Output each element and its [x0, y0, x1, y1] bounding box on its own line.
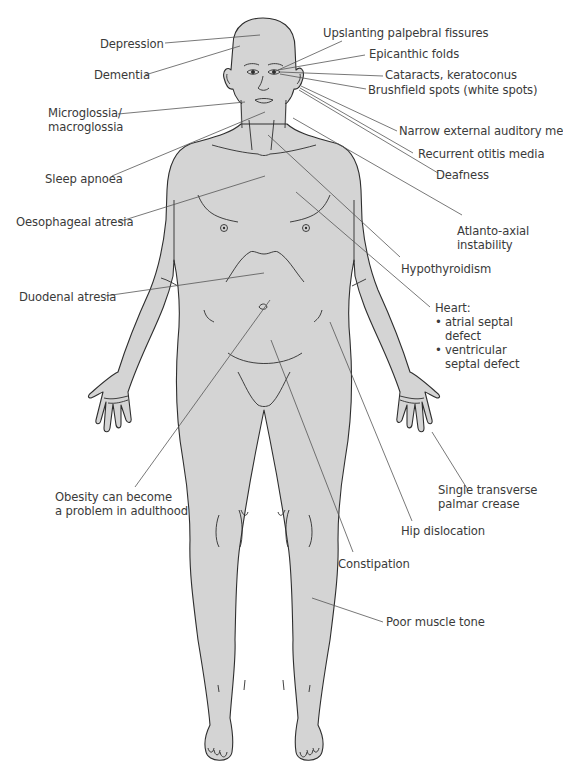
label-depression: Depression [100, 37, 164, 51]
label-constipation: Constipation [338, 557, 410, 571]
label-atlanto-line2: instability [457, 238, 529, 252]
label-upslanting-palpebral-fissures: Upslanting palpebral fissures [323, 26, 489, 40]
label-obesity: Obesity can become a problem in adulthoo… [55, 490, 188, 518]
label-obesity-line2: a problem in adulthood [55, 504, 188, 518]
torso [88, 124, 439, 760]
label-atlanto-axial-instability: Atlanto-axial instability [457, 224, 529, 252]
label-palmar-line2: palmar crease [438, 497, 537, 511]
label-deafness: Deafness [436, 168, 489, 182]
label-microglossia-line2: macroglossia [48, 120, 123, 134]
label-hypothyroidism: Hypothyroidism [401, 262, 491, 276]
label-poor-muscle-tone: Poor muscle tone [386, 615, 485, 629]
label-single-transverse-palmar-crease: Single transverse palmar crease [438, 483, 537, 511]
label-heart-item-vsd: •ventricularseptal defect [435, 343, 519, 371]
label-atlanto-line1: Atlanto-axial [457, 224, 529, 238]
label-cataracts-keratoconus: Cataracts, keratoconus [385, 68, 517, 82]
label-obesity-line1: Obesity can become [55, 490, 188, 504]
label-heart-title: Heart: [435, 301, 519, 315]
label-duodenal-atresia: Duodenal atresia [19, 290, 116, 304]
label-recurrent-otitis-media: Recurrent otitis media [418, 147, 544, 161]
label-palmar-line1: Single transverse [438, 483, 537, 497]
label-heart-item-asd: •atrial septaldefect [435, 315, 519, 343]
label-hip-dislocation: Hip dislocation [401, 524, 485, 538]
label-narrow-auditory-meatus: Narrow external auditory me [399, 124, 563, 138]
label-heart: Heart: •atrial septaldefect •ventricular… [435, 301, 519, 371]
label-epicanthic-folds: Epicanthic folds [369, 47, 459, 61]
label-sleep-apnoea: Sleep apnoea [45, 172, 123, 186]
label-microglossia: Microglossia/ macroglossia [48, 106, 123, 134]
label-oesophageal-atresia: Oesophageal atresia [16, 215, 133, 229]
label-microglossia-line1: Microglossia/ [48, 106, 123, 120]
label-brushfield-spots: Brushfield spots (white spots) [368, 83, 537, 97]
label-dementia: Dementia [94, 68, 150, 82]
